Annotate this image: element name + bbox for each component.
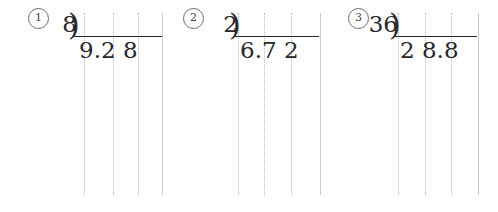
column-guide-line [320,13,322,195]
dividend-2: 6.7 2 [240,38,299,63]
division-bracket-icon: ) [229,10,241,40]
problem-index-1: 1 [28,8,49,29]
column-guide-line [138,13,140,195]
dividend-3: 2 8.8 [400,38,459,63]
problem-index-2: 2 [183,8,204,29]
dividend-1: 9.2 8 [79,38,138,63]
division-bracket-icon: ) [68,10,80,40]
column-guide-line [162,13,164,195]
division-bracket-icon: ) [389,10,401,40]
worksheet-sheet: 1 8 ) 9.2 8 2 2 ) 6.7 2 3 36 ) [0,0,498,212]
column-guide-line [478,13,480,195]
problem-index-3: 3 [348,8,369,29]
